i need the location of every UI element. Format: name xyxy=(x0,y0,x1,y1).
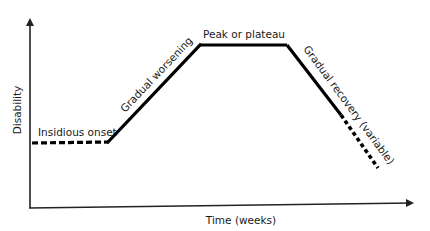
y-axis-label: Disability xyxy=(11,86,23,135)
onset-label: Insidious onset xyxy=(38,126,117,138)
x-axis-label: Time (weeks) xyxy=(205,214,276,226)
onset-segment xyxy=(32,142,108,143)
disease-course-diagram: Disability Time (weeks) Insidious onset … xyxy=(0,0,430,231)
recovery-label: Gradual recovery (variable) xyxy=(301,43,397,166)
worsening-segment xyxy=(108,45,200,142)
worsening-label: Gradual worsening xyxy=(118,34,195,114)
x-axis xyxy=(29,203,412,208)
plateau-label: Peak or plateau xyxy=(203,28,285,40)
